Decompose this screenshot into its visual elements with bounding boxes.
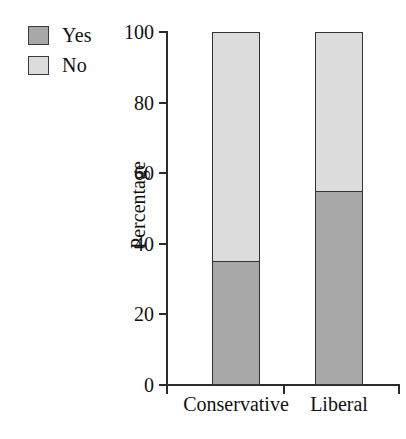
bar-segment-yes[interactable]: [213, 261, 259, 384]
y-axis-tick: [159, 102, 168, 104]
y-axis-tick: [159, 313, 168, 315]
y-axis-tick-label: 80: [134, 93, 154, 113]
x-axis-label-liberal: Liberal: [264, 394, 406, 414]
y-axis-tick-label: 40: [134, 234, 154, 254]
bar-liberal[interactable]: [315, 32, 363, 385]
legend-label-yes: Yes: [62, 25, 92, 45]
y-axis-tick-label: 60: [134, 163, 154, 183]
plot-area: 020406080100 ConservativeLiberal: [166, 32, 400, 385]
legend-swatch-yes: [28, 26, 49, 45]
y-axis-line: [166, 32, 168, 385]
bar-conservative[interactable]: [212, 32, 260, 385]
legend-swatch-no: [28, 56, 49, 75]
y-axis-tick: [159, 172, 168, 174]
bar-segment-yes[interactable]: [316, 191, 362, 384]
y-axis-tick: [159, 31, 168, 33]
y-axis-title: Percentage: [104, 10, 124, 140]
x-axis-tick: [398, 385, 400, 394]
y-axis-tick-label: 100: [124, 22, 154, 42]
x-axis-tick: [166, 385, 168, 394]
legend-label-no: No: [62, 55, 87, 75]
bar-segment-no[interactable]: [213, 33, 259, 261]
y-axis-tick-label: 20: [134, 304, 154, 324]
y-axis-tick-label: 0: [144, 375, 154, 395]
bar-segment-no[interactable]: [316, 33, 362, 191]
y-axis-tick: [159, 243, 168, 245]
stacked-bar-chart: Yes No Percentage 020406080100 Conservat…: [0, 0, 406, 439]
